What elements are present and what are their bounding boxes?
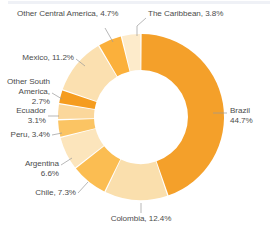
label-other-south-america-line1: Other South xyxy=(2,77,50,87)
label-argentina-line2: 6.6% xyxy=(4,169,59,179)
label-peru: Peru, 3.4% xyxy=(0,130,50,140)
label-ecuador: Ecuador 3.1% xyxy=(2,106,46,126)
label-brazil-line2: 44.7% xyxy=(230,116,274,126)
label-colombia: Colombia, 12.4% xyxy=(91,214,191,224)
label-other-south-america: Other South America, 2.7% xyxy=(2,77,50,108)
label-chile: Chile, 7.3% xyxy=(6,188,76,198)
label-other-south-america-line2: America, 2.7% xyxy=(2,87,50,107)
label-ecuador-line2: 3.1% xyxy=(2,116,46,126)
label-mexico: Mexico, 11.2% xyxy=(2,53,74,63)
label-argentina: Argentina 6.6% xyxy=(4,159,59,179)
label-brazil-line1: Brazil xyxy=(230,106,274,116)
label-other-central-america: Other Central America, 4.7% xyxy=(17,9,118,19)
label-brazil: Brazil 44.7% xyxy=(230,106,274,126)
leader-line-the-caribbean xyxy=(137,18,146,36)
donut-chart: Brazil 44.7% Colombia, 12.4% Chile, 7.3%… xyxy=(0,0,276,229)
leader-line-chile xyxy=(78,182,88,193)
leader-line-argentina xyxy=(61,158,72,165)
label-the-caribbean: The Caribbean, 3.8% xyxy=(148,9,223,19)
label-argentina-line1: Argentina xyxy=(4,159,59,169)
donut-slices xyxy=(58,34,224,200)
leader-line-other-south-america xyxy=(52,93,62,99)
leader-line-other-central-america xyxy=(105,28,113,42)
